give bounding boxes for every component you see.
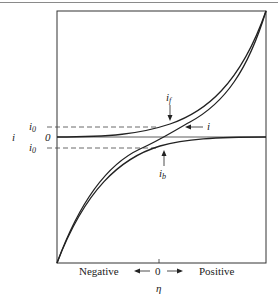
x-left-arrow-head — [134, 269, 140, 274]
if-arrow-head — [168, 115, 173, 121]
forward-current-curve — [57, 11, 266, 137]
backward-current-label: ib — [159, 168, 166, 181]
net-current-label: i — [207, 121, 210, 132]
i0-upper-label: i0 — [29, 121, 36, 134]
diagram-canvas — [0, 0, 278, 296]
ib-arrow-head — [162, 150, 167, 156]
x-positive-label: Positive — [199, 266, 234, 277]
x-zero-label: 0 — [155, 266, 161, 277]
x-negative-label: Negative — [79, 266, 119, 277]
zero-label: 0 — [45, 132, 51, 143]
x-right-arrow-head — [177, 269, 183, 274]
backward-current-curve — [57, 137, 266, 263]
y-axis-label: i — [12, 132, 15, 143]
i0-lower-label: i0 — [29, 142, 36, 155]
x-axis-label: η — [156, 283, 161, 294]
forward-current-label: if — [166, 92, 171, 105]
i-arrow-head — [185, 125, 191, 130]
